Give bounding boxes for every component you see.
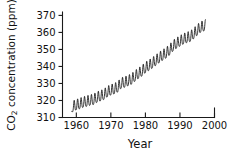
- y-tick-label: 310: [36, 112, 55, 123]
- x-axis-ticks: [76, 113, 214, 118]
- y-tick-label: 370: [36, 10, 55, 21]
- x-tick-label: 1960: [64, 120, 89, 131]
- x-tick-label: 2000: [202, 120, 227, 131]
- svg-text:CO2 concentration (ppm): CO2 concentration (ppm): [5, 0, 19, 131]
- x-axis-tick-labels: 19601970198019902000: [64, 120, 228, 131]
- y-axis-ticks: [59, 15, 63, 117]
- co2-data-line: [72, 20, 206, 112]
- y-tick-label: 350: [36, 44, 55, 55]
- y-axis-label: CO2 concentration (ppm): [5, 0, 19, 131]
- y-tick-label: 340: [36, 61, 55, 72]
- y-tick-label: 360: [36, 27, 55, 38]
- y-tick-label: 330: [36, 78, 55, 89]
- x-tick-label: 1990: [167, 120, 192, 131]
- y-axis-tick-labels: 310320330340350360370: [36, 10, 55, 123]
- co2-concentration-chart: 310320330340350360370 196019701980199020…: [0, 0, 233, 153]
- y-tick-label: 320: [36, 95, 55, 106]
- x-tick-label: 1980: [133, 120, 158, 131]
- x-tick-label: 1970: [98, 120, 123, 131]
- x-axis-label: Year: [127, 137, 153, 151]
